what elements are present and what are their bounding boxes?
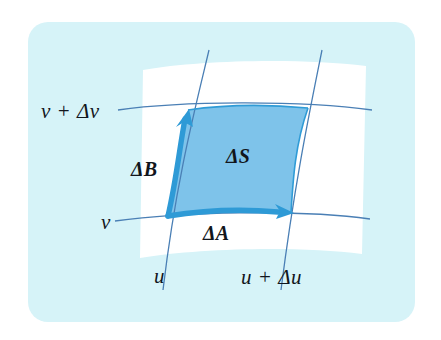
label-delta-a: ΔA — [203, 223, 229, 243]
surface-element-diagram — [0, 0, 441, 340]
label-delta-s: ΔS — [226, 146, 250, 166]
figure-container: v + Δv v u u + Δu ΔS ΔB ΔA — [0, 0, 441, 340]
label-v-plus-delta-v: v + Δv — [41, 101, 100, 122]
label-u: u — [154, 266, 165, 287]
label-delta-b: ΔB — [131, 159, 157, 179]
label-v: v — [101, 212, 111, 233]
label-u-plus-delta-u: u + Δu — [241, 267, 302, 288]
